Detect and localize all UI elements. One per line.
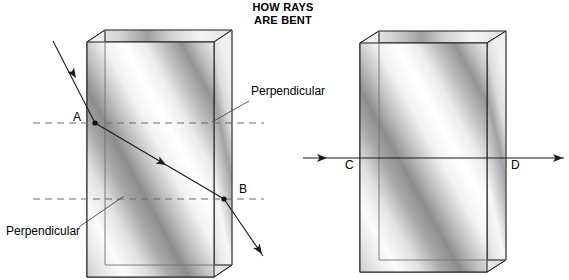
point-a-marker xyxy=(92,120,97,125)
right-glass-block xyxy=(360,31,506,272)
right-block-right-face xyxy=(487,31,506,272)
label-point-c: C xyxy=(345,159,354,171)
left-glass-block xyxy=(87,30,232,277)
label-point-d: D xyxy=(511,159,520,171)
point-b-marker xyxy=(221,196,226,201)
label-point-b: B xyxy=(239,183,247,195)
label-perpendicular-bottom: Perpendicular xyxy=(6,225,80,237)
label-perpendicular-top: Perpendicular xyxy=(251,85,325,97)
left-block-top-face xyxy=(87,30,232,42)
label-point-a: A xyxy=(73,111,81,123)
diagram-canvas: HOW RAYS ARE BENT xyxy=(0,0,569,280)
left-block-right-face xyxy=(214,30,232,277)
left-block-front-face xyxy=(87,42,214,277)
refraction-diagram xyxy=(0,0,569,280)
right-block-top-face xyxy=(360,31,506,43)
